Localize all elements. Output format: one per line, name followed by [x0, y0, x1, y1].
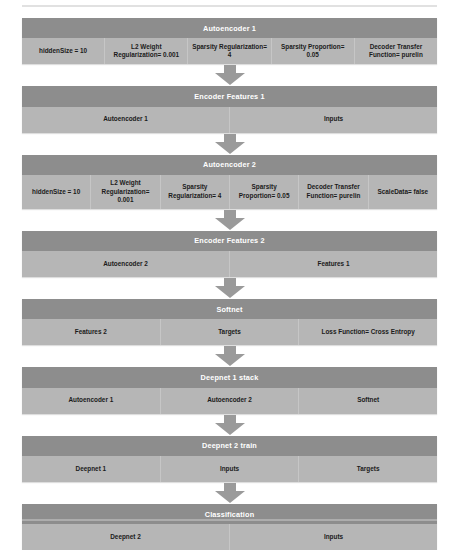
flow-block-cell: L2 Weight Regularization= 0.001 — [105, 38, 188, 64]
flow-block-body: Autoencoder 1Inputs — [22, 107, 437, 133]
down-arrow-icon — [22, 345, 437, 367]
down-arrow-icon — [22, 482, 437, 504]
down-arrow-head — [215, 286, 245, 298]
flow-block-cell: Sparsity Proportion= 0.05 — [230, 175, 299, 209]
flow-block-cell: Decoder Transfer Function= purelin — [355, 38, 437, 64]
flow-block-title: Autoencoder 1 — [22, 18, 437, 38]
down-arrow-head — [215, 218, 245, 230]
flow-block-cell: Autoencoder 2 — [161, 388, 300, 414]
down-arrow-glyph — [215, 415, 245, 435]
flow-block: SoftnetFeatures 2TargetsLoss Function= C… — [22, 299, 437, 345]
flow-block-body: Autoencoder 1Autoencoder 2Softnet — [22, 388, 437, 414]
flow-block-cell: Loss Function= Cross Entropy — [299, 319, 437, 345]
flow-block-title: Autoencoder 2 — [22, 155, 437, 175]
flow-block: Autoencoder 2hiddenSize = 10L2 Weight Re… — [22, 155, 437, 209]
flow-block-title: Encoder Features 2 — [22, 231, 437, 251]
flow-block-title: Deepnet 2 train — [22, 436, 437, 456]
flow-block-cell: Deepnet 1 — [22, 456, 161, 482]
down-arrow-glyph — [215, 278, 245, 298]
flow-block-cell: hiddenSize = 10 — [22, 175, 91, 209]
down-arrow-head — [215, 142, 245, 154]
flow-block-title: Classification — [22, 504, 437, 524]
caption-ghost — [8, 527, 248, 536]
flow-block-cell: Targets — [161, 319, 300, 345]
flow-block-title: Encoder Features 1 — [22, 86, 437, 106]
flow-block-cell: Decoder Transfer Function= purelin — [299, 175, 368, 209]
flow-block-cell: Inputs — [230, 524, 437, 550]
flow-block-body: Features 2TargetsLoss Function= Cross En… — [22, 319, 437, 345]
flow-block-cell: Autoencoder 2 — [22, 251, 230, 277]
down-arrow-icon — [22, 64, 437, 86]
flow-block-cell: Inputs — [230, 107, 437, 133]
flow-block-cell: Features 2 — [22, 319, 161, 345]
flow-block-cell: Autoencoder 1 — [22, 107, 230, 133]
scan-edge-top — [22, 5, 437, 7]
flow-block-cell: Sparsity Regularization= 4 — [188, 38, 271, 64]
down-arrow-icon — [22, 277, 437, 299]
flowchart: Autoencoder 1hiddenSize = 10L2 Weight Re… — [22, 18, 437, 550]
flow-block-body: hiddenSize = 10L2 Weight Regularization=… — [22, 38, 437, 64]
down-arrow-glyph — [215, 65, 245, 85]
down-arrow-glyph — [215, 346, 245, 366]
flow-block-cell: Softnet — [299, 388, 437, 414]
down-arrow-glyph — [215, 483, 245, 503]
down-arrow-icon — [22, 133, 437, 155]
flow-block: Deepnet 1 stackAutoencoder 1Autoencoder … — [22, 367, 437, 413]
flow-block-body: Deepnet 1InputsTargets — [22, 456, 437, 482]
flow-block: Autoencoder 1hiddenSize = 10L2 Weight Re… — [22, 18, 437, 64]
down-arrow-head — [215, 354, 245, 366]
down-arrow-head — [215, 73, 245, 85]
flow-block-cell: Autoencoder 1 — [22, 388, 161, 414]
flow-block: Encoder Features 2Autoencoder 2Features … — [22, 231, 437, 277]
flow-block-cell: Targets — [299, 456, 437, 482]
flow-block: Encoder Features 1Autoencoder 1Inputs — [22, 86, 437, 132]
flow-block-cell: Sparsity Proportion= 0.05 — [272, 38, 355, 64]
flow-block-title: Deepnet 1 stack — [22, 367, 437, 387]
scan-edge-bottom — [22, 519, 437, 521]
down-arrow-glyph — [215, 134, 245, 154]
flow-block-cell: Inputs — [161, 456, 300, 482]
down-arrow-glyph — [215, 210, 245, 230]
flow-block-cell: Features 1 — [230, 251, 437, 277]
flow-block-cell: ScaleData= false — [369, 175, 437, 209]
down-arrow-icon — [22, 414, 437, 436]
flow-block-body: Autoencoder 2Features 1 — [22, 251, 437, 277]
flow-block-cell: L2 Weight Regularization= 0.001 — [91, 175, 160, 209]
flow-block-cell: Sparsity Regularization= 4 — [161, 175, 230, 209]
down-arrow-head — [215, 423, 245, 435]
flow-block: Deepnet 2 trainDeepnet 1InputsTargets — [22, 436, 437, 482]
flow-block-cell: hiddenSize = 10 — [22, 38, 105, 64]
down-arrow-icon — [22, 209, 437, 231]
down-arrow-head — [215, 491, 245, 503]
flow-block-title: Softnet — [22, 299, 437, 319]
flow-block-body: hiddenSize = 10L2 Weight Regularization=… — [22, 175, 437, 209]
